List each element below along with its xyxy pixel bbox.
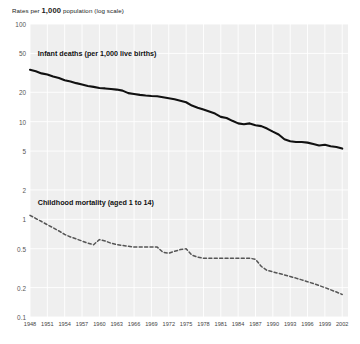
x-axis-tick-label: 1999 (319, 321, 331, 327)
x-axis-tick-label: 1990 (267, 321, 279, 327)
x-axis-tick-label: 1981 (215, 321, 227, 327)
y-axis-tick-label: 5 (0, 148, 26, 155)
x-axis-tick-label: 1951 (41, 321, 53, 327)
x-axis-tick-label: 2002 (336, 321, 348, 327)
y-axis-tick-label: 0.2 (0, 284, 26, 291)
y-axis-tick-label: 20 (0, 89, 26, 96)
x-axis-tick-label: 1993 (284, 321, 296, 327)
y-axis-tick-label: 50 (0, 50, 26, 57)
x-axis-tick-label: 1948 (24, 321, 36, 327)
x-axis-tick-label: 1975 (180, 321, 192, 327)
x-axis-tick-label: 1957 (76, 321, 88, 327)
y-axis-tick-label: 2 (0, 186, 26, 193)
y-axis-tick-label: 1 (0, 216, 26, 223)
x-axis-tick-label: 1987 (249, 321, 261, 327)
x-axis-tick-label: 1969 (145, 321, 157, 327)
x-axis-tick-label: 1966 (128, 321, 140, 327)
chart-root: Rates per 1,000 population (log scale) O… (0, 0, 360, 344)
y-axis-tick-label: 10 (0, 118, 26, 125)
y-axis-tick-label: 0.5 (0, 245, 26, 252)
x-axis-tick-label: 1963 (110, 321, 122, 327)
x-axis-tick-label: 1978 (197, 321, 209, 327)
plot-background (30, 24, 348, 317)
x-axis-tick-label: 1984 (232, 321, 244, 327)
y-axis-tick-label: 0.1 (0, 314, 26, 321)
childhood-mortality-label: Childhood mortality (aged 1 to 14) (38, 198, 154, 207)
x-axis-tick-label: 1972 (163, 321, 175, 327)
x-axis-tick-label: 1996 (301, 321, 313, 327)
x-axis-tick-label: 1960 (93, 321, 105, 327)
x-axis-tick-label: 1954 (58, 321, 70, 327)
y-axis-tick-label: 100 (0, 21, 26, 28)
infant-deaths-label: Infant deaths (per 1,000 live births) (38, 49, 157, 58)
